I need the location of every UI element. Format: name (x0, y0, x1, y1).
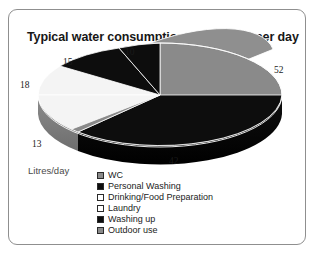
axis-unit-label: Litres/day (28, 165, 69, 176)
legend-label-laundry: Laundry (108, 203, 141, 213)
legend-swatch-icon-wc (97, 172, 104, 179)
data-label-laundry: 18 (20, 80, 30, 90)
data-label-drinking-food: 13 (32, 139, 42, 149)
chart-title: Typical water consumption per person per… (27, 30, 299, 44)
legend-swatch-icon-drinking-food (97, 194, 104, 201)
data-label-wc: 52 (274, 65, 284, 75)
legend-swatch-icon-laundry (97, 205, 104, 212)
data-label-outdoor-use: 10 (125, 47, 135, 57)
legend-item-outdoor-use[interactable]: Outdoor use (97, 225, 213, 236)
legend-item-washing-up[interactable]: Washing up (97, 214, 213, 225)
chart-legend: WC Personal Washing Drinking/Food Prepar… (97, 170, 213, 236)
legend-label-wc: WC (108, 170, 123, 180)
legend-swatch-icon-personal-washing (97, 183, 104, 190)
legend-item-laundry[interactable]: Laundry (97, 203, 213, 214)
legend-label-drinking-food: Drinking/Food Preparation (108, 192, 213, 202)
legend-item-drinking-food[interactable]: Drinking/Food Preparation (97, 192, 213, 203)
legend-label-personal-washing: Personal Washing (108, 181, 181, 191)
data-label-washing-up: 15 (63, 57, 73, 67)
legend-label-outdoor-use: Outdoor use (108, 225, 158, 235)
data-label-personal-washing: 42 (169, 156, 179, 166)
legend-swatch-icon-outdoor-use (97, 227, 104, 234)
legend-label-washing-up: Washing up (108, 214, 155, 224)
legend-item-personal-washing[interactable]: Personal Washing (97, 181, 213, 192)
legend-swatch-icon-washing-up (97, 216, 104, 223)
legend-item-wc[interactable]: WC (97, 170, 213, 181)
